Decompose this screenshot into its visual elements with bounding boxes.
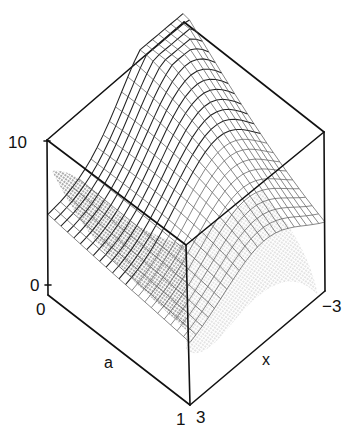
a-axis-label: a [104, 354, 113, 371]
box-edge-top-right [184, 22, 324, 132]
x-tick-label-neg3: −3 [322, 297, 341, 316]
box-edge-top-left [47, 22, 184, 140]
mesh-line-x [165, 29, 307, 225]
x-tick-label-3: 3 [196, 408, 205, 427]
surface-plot-3d: 10 0 0 a 1 3 x −3 [0, 0, 358, 445]
x-axis-label: x [262, 351, 270, 368]
surface-underside-right [186, 190, 318, 353]
z-axis-left-vertical [47, 140, 48, 295]
mesh-line-x [171, 24, 313, 225]
a-tick-label-1: 1 [176, 410, 185, 429]
z-tick-label-10: 10 [8, 133, 27, 152]
mesh-line-x [183, 14, 325, 222]
z-tick-label-0: 0 [30, 276, 39, 295]
a-tick-label-0: 0 [36, 300, 45, 319]
box-edge-right-vertical [324, 132, 325, 291]
